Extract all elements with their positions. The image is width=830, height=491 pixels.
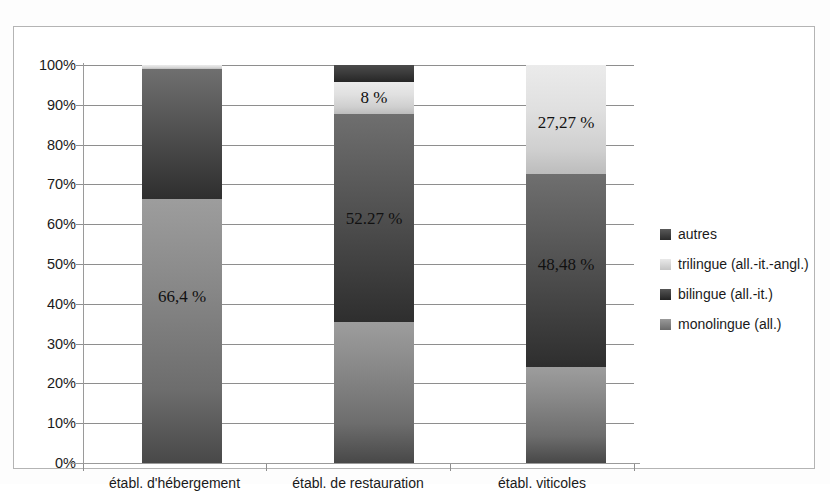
y-tick-label-30: 30% bbox=[20, 337, 76, 352]
chart-legend: autres trilingue (all.-it.-angl.) biling… bbox=[660, 219, 809, 339]
legend-item-trilingue[interactable]: trilingue (all.-it.-angl.) bbox=[660, 249, 809, 279]
x-category-label-hebergement: établ. d'hébergement bbox=[83, 476, 266, 490]
legend-item-monolingue[interactable]: monolingue (all.) bbox=[660, 309, 809, 339]
legend-label-monolingue: monolingue (all.) bbox=[678, 317, 782, 331]
y-tick-label-70: 70% bbox=[20, 177, 76, 192]
x-tick-mark bbox=[266, 464, 267, 471]
legend-item-autres[interactable]: autres bbox=[660, 219, 809, 249]
y-axis-labels: 100% 90% 80% 70% 60% 50% 40% 30% 20% 10%… bbox=[14, 65, 76, 463]
x-tick-mark bbox=[634, 464, 635, 471]
x-category-label-restauration: établ. de restauration bbox=[266, 476, 450, 490]
x-tick-mark bbox=[83, 464, 84, 471]
bar-segment-autres[interactable] bbox=[334, 65, 414, 82]
y-tick-label-80: 80% bbox=[20, 138, 76, 153]
y-tick-label-50: 50% bbox=[20, 257, 76, 272]
y-tick-label-0: 0% bbox=[20, 456, 76, 471]
bar-segment-trilingue[interactable] bbox=[142, 65, 222, 69]
bar-label-trilingue: 8 % bbox=[334, 88, 414, 108]
bar-label-monolingue: 66,4 % bbox=[142, 287, 222, 307]
bar-etabl-hebergement[interactable]: 66,4 % bbox=[142, 65, 222, 463]
y-axis-line bbox=[83, 63, 84, 465]
y-tick-label-60: 60% bbox=[20, 217, 76, 232]
plot-area: 66,4 % 52.27 % 8 % bbox=[83, 65, 634, 463]
legend-label-autres: autres bbox=[678, 227, 717, 241]
legend-swatch-bilingue-icon bbox=[660, 289, 671, 300]
bar-segment-monolingue[interactable] bbox=[142, 199, 222, 463]
legend-swatch-trilingue-icon bbox=[660, 259, 671, 270]
x-category-label-viticoles: établ. viticoles bbox=[450, 476, 634, 490]
x-axis-line bbox=[69, 463, 640, 464]
legend-label-bilingue: bilingue (all.-it.) bbox=[678, 287, 773, 301]
bar-label-bilingue: 48,48 % bbox=[526, 255, 606, 275]
legend-swatch-autres-icon bbox=[660, 229, 671, 240]
bar-segment-monolingue[interactable] bbox=[526, 367, 606, 464]
bar-label-bilingue: 52.27 % bbox=[334, 209, 414, 229]
legend-item-bilingue[interactable]: bilingue (all.-it.) bbox=[660, 279, 809, 309]
y-tick-label-20: 20% bbox=[20, 376, 76, 391]
bar-segment-bilingue[interactable] bbox=[142, 69, 222, 199]
y-tick-label-10: 10% bbox=[20, 416, 76, 431]
chart-frame: 100% 90% 80% 70% 60% 50% 40% 30% 20% 10%… bbox=[13, 26, 815, 469]
y-tick-label-100: 100% bbox=[20, 58, 76, 73]
legend-label-trilingue: trilingue (all.-it.-angl.) bbox=[678, 257, 809, 271]
x-tick-mark bbox=[450, 464, 451, 471]
y-tick-label-40: 40% bbox=[20, 297, 76, 312]
bar-etabl-viticoles[interactable]: 48,48 % 27,27 % bbox=[526, 65, 606, 463]
bar-segment-monolingue[interactable] bbox=[334, 322, 414, 463]
y-tick-label-90: 90% bbox=[20, 98, 76, 113]
bar-etabl-restauration[interactable]: 52.27 % 8 % bbox=[334, 65, 414, 463]
legend-swatch-monolingue-icon bbox=[660, 319, 671, 330]
bar-label-trilingue: 27,27 % bbox=[526, 113, 606, 133]
